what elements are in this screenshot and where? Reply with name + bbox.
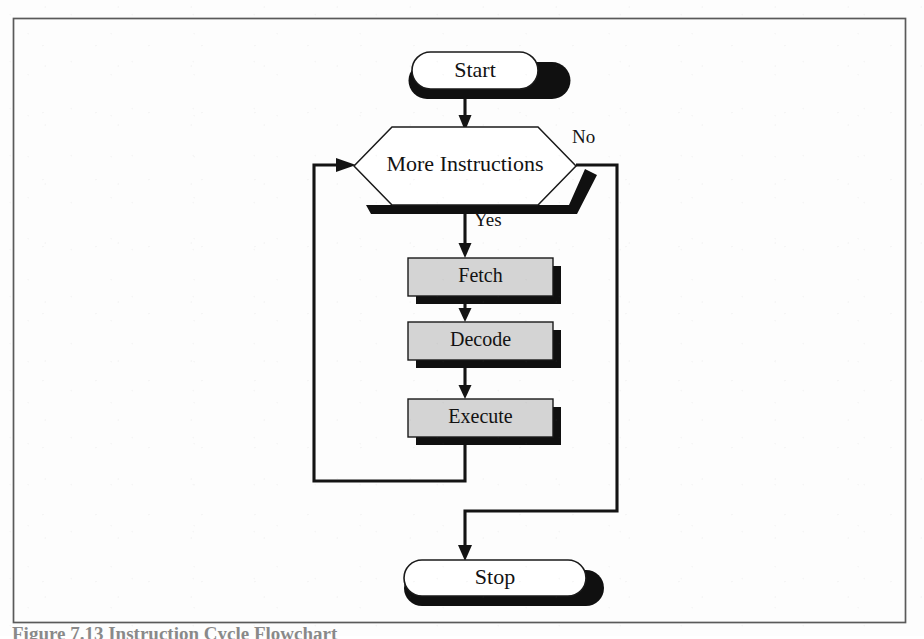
node-decode[interactable]: Decode xyxy=(408,322,561,368)
node-start[interactable]: Start xyxy=(409,52,571,99)
decode-label: Decode xyxy=(450,328,511,350)
start-label: Start xyxy=(454,57,496,82)
node-fetch[interactable]: Fetch xyxy=(408,258,561,304)
node-execute[interactable]: Execute xyxy=(408,399,561,445)
arrowhead-down-into-decode xyxy=(459,308,472,322)
edge-label-yes: Yes xyxy=(474,209,502,230)
arrowhead-right-into-decision xyxy=(336,158,356,172)
node-stop[interactable]: Stop xyxy=(404,560,604,606)
figure-border xyxy=(14,19,906,623)
stop-label: Stop xyxy=(475,564,515,589)
arrowhead-down-into-stop xyxy=(458,545,472,561)
decision-label: More Instructions xyxy=(386,151,543,176)
figure-caption: Figure 7.13 Instruction Cycle Flowchart xyxy=(0,624,924,639)
fetch-label: Fetch xyxy=(458,264,502,286)
node-more-instructions[interactable]: More Instructions xyxy=(354,127,597,214)
figure-caption-text: Figure 7.13 Instruction Cycle Flowchart xyxy=(12,624,337,639)
edge-label-no: No xyxy=(572,126,595,147)
execute-label: Execute xyxy=(448,405,513,427)
arrowhead-down-into-fetch xyxy=(459,243,472,258)
arrowhead-down-into-execute xyxy=(459,385,472,399)
